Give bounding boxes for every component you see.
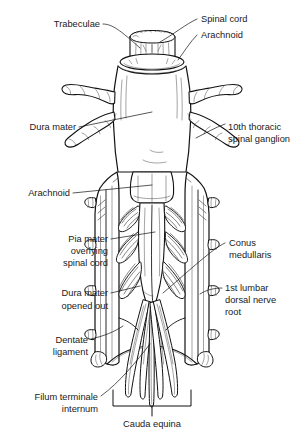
label-spinal-cord: Spinal cord — [201, 14, 248, 24]
label-pia-mater-line3: spinal cord — [63, 258, 108, 268]
label-dura-opened-line1: Dura mater — [62, 288, 109, 298]
label-filum-line1: Filum terminale — [34, 392, 98, 402]
dura-mater-tube — [113, 66, 191, 172]
anatomical-figure: Trabeculae Spinal cord Arachnoid Dura ma… — [0, 0, 307, 434]
label-dentate-line2: ligament — [53, 347, 89, 357]
label-conus-line1: Conus — [229, 238, 256, 248]
label-pia-mater-line1: Pia mater — [68, 234, 108, 244]
label-dura-mater: Dura mater — [30, 122, 77, 132]
spinal-cord-diagram: Trabeculae Spinal cord Arachnoid Dura ma… — [0, 0, 307, 434]
label-dura-opened-line2: opened out — [61, 301, 108, 311]
label-cauda-equina: Cauda equina — [123, 419, 182, 429]
label-thoracic-ganglion-line2: spinal ganglion — [228, 134, 290, 144]
label-arachnoid-mid: Arachnoid — [28, 188, 70, 198]
label-pia-mater-line2: overlying — [71, 246, 108, 256]
label-dentate-line1: Dentate — [55, 335, 88, 345]
label-conus-line2: medullaris — [229, 250, 272, 260]
label-trabeculae: Trabeculae — [54, 19, 100, 29]
label-lumbar-root-line3: root — [225, 307, 241, 317]
label-filum-line2: internum — [62, 404, 98, 414]
label-arachnoid-top: Arachnoid — [201, 30, 243, 40]
label-lumbar-root-line2: dorsal nerve — [225, 295, 276, 305]
label-thoracic-ganglion-line1: 10th thoracic — [228, 122, 282, 132]
arachnoid-membrane-collar — [120, 54, 184, 70]
label-lumbar-root-line1: 1st lumbar — [225, 283, 268, 293]
